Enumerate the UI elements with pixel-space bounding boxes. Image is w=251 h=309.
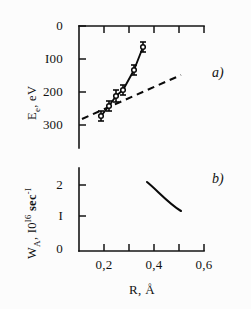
panel-a-dashed-trend (82, 75, 181, 119)
panel-b-ytick-label-0: 0 (56, 242, 63, 255)
panel-b-ytick-label-2: 2 (56, 178, 63, 191)
panel-b-y-axis-title-main: W (25, 247, 39, 259)
panel-a-ytick-label-300: 300 (43, 118, 63, 131)
panel-b-ytick-label-1: I (58, 209, 63, 222)
panel-b-curve (147, 182, 181, 211)
panel-a-y-axis-title-main: E (25, 112, 39, 120)
x-axis-title: R, Å (129, 283, 155, 296)
panel-b-axes (79, 168, 204, 251)
panel-b-y-axis-title-unit2: sec (25, 194, 39, 214)
panel-a-y-axis-title-unit: , eV (25, 86, 39, 108)
panel-a-y-axis-title: Ee, eV (26, 86, 42, 120)
xtick-label-02: 0,2 (96, 258, 113, 271)
panel-b-y-axis-title: WA, I0I6 sec-I (24, 188, 42, 259)
xtick-label-04: 0,4 (146, 258, 163, 271)
plot-canvas (0, 0, 251, 309)
panel-b-y-axis-title-exp2: -I (23, 188, 33, 194)
panel-b-label: b) (212, 172, 224, 186)
xtick-label-06: 0,6 (196, 258, 213, 271)
panel-a-ytick-label-100: I00 (45, 52, 63, 65)
panel-a-axes (79, 26, 204, 148)
panel-b-y-axis-title-exp: I6 (23, 215, 33, 223)
panel-b-y-axis-title-sub: A (32, 240, 42, 247)
panel-a-ytick-label-200: 200 (43, 85, 63, 98)
figure-container: 0 I00 200 300 Ee, eV 2 I 0 WA, I0I6 sec-… (0, 0, 251, 309)
panel-a-y-axis-title-sub: e (32, 108, 42, 112)
panel-b-y-axis-title-unit: , I0 (25, 222, 39, 240)
panel-a-label: a) (212, 66, 224, 80)
panel-a-ytick-label-0: 0 (56, 19, 63, 32)
